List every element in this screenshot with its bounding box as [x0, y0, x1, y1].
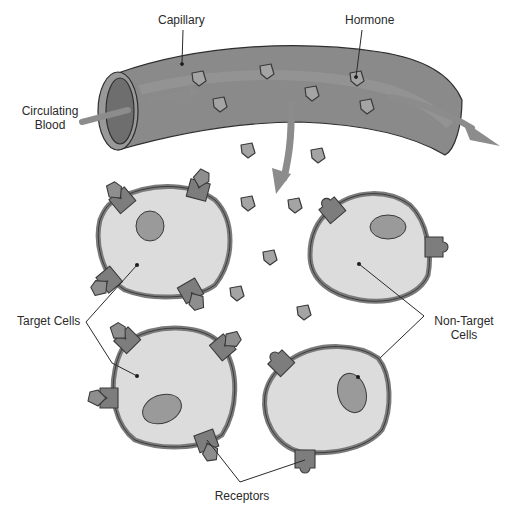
hormone-diagram — [0, 0, 514, 517]
label-non-target-cells: Non-Target Cells — [428, 314, 500, 342]
label-non-target-line1: Non-Target — [428, 314, 500, 328]
label-capillary: Capillary — [158, 13, 205, 27]
non-target-cell-bottom-right — [264, 346, 389, 473]
target-cell-top-left — [87, 167, 230, 314]
label-circulating-blood-line1: Circulating — [18, 104, 82, 118]
label-non-target-line2: Cells — [428, 328, 500, 342]
label-receptors: Receptors — [212, 489, 272, 503]
free-hormones — [230, 143, 325, 320]
label-target-cells: Target Cells — [17, 314, 80, 328]
target-cell-bottom-left — [88, 318, 245, 464]
label-circulating-blood: Circulating Blood — [18, 104, 82, 132]
non-target-cell-top-right — [310, 193, 448, 301]
label-circulating-blood-line2: Blood — [18, 118, 82, 132]
label-hormone: Hormone — [345, 13, 394, 27]
